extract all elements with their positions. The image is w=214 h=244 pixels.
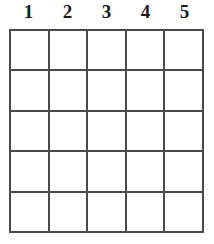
grid-cell[interactable] xyxy=(50,112,89,152)
grid-cell[interactable] xyxy=(127,71,166,111)
column-header-4: 4 xyxy=(126,0,165,29)
grid-cell[interactable] xyxy=(11,112,50,152)
grid-cell[interactable] xyxy=(50,193,89,233)
grid-cell[interactable] xyxy=(88,152,127,192)
grid-cell[interactable] xyxy=(11,71,50,111)
grid-row xyxy=(11,31,204,71)
grid-cell[interactable] xyxy=(50,31,89,71)
grid-cell[interactable] xyxy=(88,31,127,71)
column-header-3: 3 xyxy=(87,0,126,29)
grid-cell[interactable] xyxy=(11,152,50,192)
grid-cell[interactable] xyxy=(127,193,166,233)
column-header-5: 5 xyxy=(165,0,204,29)
column-header-1: 1 xyxy=(9,0,48,29)
grid-cell[interactable] xyxy=(11,31,50,71)
grid-cell[interactable] xyxy=(165,31,204,71)
grid-cell[interactable] xyxy=(88,112,127,152)
grid-cell[interactable] xyxy=(165,112,204,152)
grid-cell[interactable] xyxy=(165,152,204,192)
column-header-row: 1 2 3 4 5 xyxy=(9,0,204,29)
grid-cell[interactable] xyxy=(88,71,127,111)
grid-cell[interactable] xyxy=(127,112,166,152)
puzzle-sheet: 1 2 3 4 5 xyxy=(0,0,214,244)
grid-row xyxy=(11,193,204,233)
puzzle-grid xyxy=(9,29,204,233)
grid-cell[interactable] xyxy=(88,193,127,233)
grid-cell[interactable] xyxy=(165,193,204,233)
grid-cell[interactable] xyxy=(50,152,89,192)
grid-cell[interactable] xyxy=(11,193,50,233)
grid-cell[interactable] xyxy=(165,71,204,111)
grid-cell[interactable] xyxy=(50,71,89,111)
grid-cell[interactable] xyxy=(127,152,166,192)
column-header-2: 2 xyxy=(48,0,87,29)
grid-row xyxy=(11,152,204,192)
grid-cell[interactable] xyxy=(127,31,166,71)
grid-row xyxy=(11,71,204,111)
grid-row xyxy=(11,112,204,152)
